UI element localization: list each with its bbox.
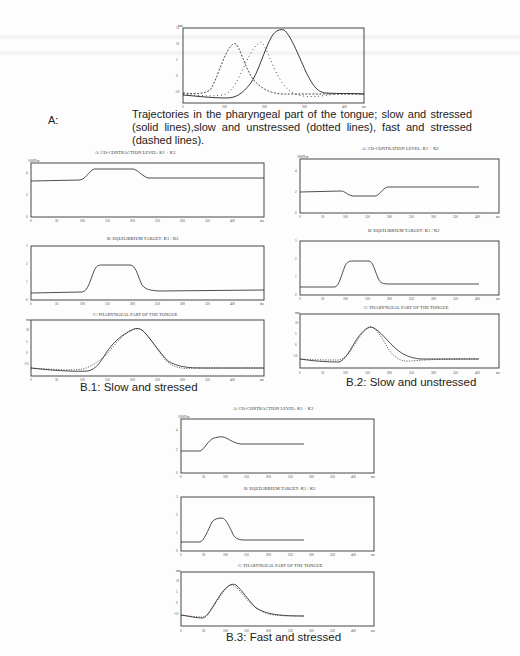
svg-text:10: 10 — [176, 42, 180, 46]
b1-label: B.1: Slow and stressed — [80, 381, 198, 393]
svg-text:0: 0 — [299, 215, 301, 219]
svg-text:1: 1 — [26, 280, 28, 284]
b2-c-solid-curve — [300, 327, 479, 362]
svg-text:0: 0 — [180, 629, 182, 633]
svg-text:250: 250 — [288, 553, 293, 557]
b3-b-y-ticks: 3 2 1 0 — [176, 495, 178, 553]
svg-text:ms: ms — [496, 215, 500, 219]
figure-a-label: A: — [48, 114, 58, 126]
svg-text:0: 0 — [176, 74, 178, 78]
b2-b-x-ticks: 0 50 100 150 200 250 300 350 400 ms — [299, 297, 500, 301]
svg-text:200: 200 — [266, 553, 271, 557]
figure-a-y-ticks: 15 10 5 0 -10 — [175, 26, 180, 94]
svg-text:0: 0 — [30, 378, 32, 382]
svg-text:1: 1 — [176, 531, 178, 535]
b3-plot-b-title: b/ EQUILIBRIUM TARGET: k1 / k2 — [244, 486, 316, 491]
b2-pharyngeal-chart: mm 10 5 0 -10 0 50 100 150 200 250 300 3… — [297, 310, 520, 376]
svg-text:4: 4 — [295, 169, 297, 173]
svg-text:2: 2 — [26, 262, 28, 266]
svg-text:350: 350 — [453, 297, 458, 301]
b2-plot-b-title: b/ EQUILIBRIUM TARGET: k1 / k2 — [368, 228, 440, 233]
svg-text:200: 200 — [130, 302, 135, 306]
svg-text:3: 3 — [176, 495, 178, 499]
svg-text:4: 4 — [26, 171, 28, 175]
b1-a-curve — [31, 169, 264, 181]
svg-text:0: 0 — [176, 471, 178, 475]
svg-text:250: 250 — [155, 302, 160, 306]
svg-text:2: 2 — [295, 257, 297, 261]
b3-b-curve — [181, 518, 304, 542]
svg-text:10: 10 — [295, 321, 299, 325]
svg-text:0: 0 — [30, 302, 32, 306]
svg-text:300: 300 — [431, 297, 436, 301]
svg-text:350: 350 — [330, 475, 335, 479]
svg-text:100: 100 — [343, 215, 348, 219]
svg-text:ms: ms — [496, 297, 500, 301]
b3-c-y-ticks: 10 5 0 -10 — [174, 579, 180, 616]
figure-a-plot-frame — [183, 28, 364, 103]
b3-a-curve — [181, 437, 304, 451]
svg-text:100: 100 — [80, 219, 85, 223]
svg-text:1000N/m: 1000N/m — [297, 155, 309, 159]
svg-text:150: 150 — [105, 302, 110, 306]
svg-text:3: 3 — [295, 239, 297, 243]
svg-text:350: 350 — [205, 302, 210, 306]
svg-text:300: 300 — [180, 219, 185, 223]
svg-text:0: 0 — [295, 343, 297, 347]
svg-text:400: 400 — [351, 629, 356, 633]
svg-text:ms: ms — [496, 371, 500, 375]
svg-text:0: 0 — [26, 298, 28, 302]
svg-text:15: 15 — [176, 26, 180, 30]
svg-text:350: 350 — [330, 553, 335, 557]
svg-text:50: 50 — [321, 297, 325, 301]
b1-equilibrium-chart: 3 2 1 0 0 50 100 150 200 250 300 350 400… — [28, 241, 268, 307]
svg-text:100: 100 — [80, 302, 85, 306]
series-slow-unstressed-dotted — [183, 42, 364, 97]
svg-text:200: 200 — [130, 219, 135, 223]
svg-text:-10: -10 — [24, 362, 29, 366]
b3-a-x-ticks: 0 50 100 150 200 250 300 350 400 ms — [180, 475, 375, 479]
b2-b-curve — [300, 261, 479, 287]
svg-text:ms: ms — [371, 629, 375, 633]
b3-pharyngeal-chart: mm 10 5 0 -10 0 50 100 150 200 250 300 3… — [178, 568, 418, 634]
b2-plot-a-title: a/ CO-CONTRATION LEVEL: k1 + k2 — [362, 146, 439, 151]
svg-text:200: 200 — [266, 475, 271, 479]
b1-b-curve — [31, 265, 264, 293]
svg-text:250: 250 — [409, 371, 414, 375]
b3-c-dotted-curve — [181, 585, 304, 617]
svg-text:0: 0 — [176, 549, 178, 553]
b2-c-x-ticks: 0 50 100 150 200 250 300 350 400 ms — [299, 371, 500, 375]
svg-text:0: 0 — [180, 553, 182, 557]
svg-text:-10: -10 — [293, 354, 298, 358]
svg-text:100: 100 — [343, 297, 348, 301]
svg-text:150: 150 — [105, 219, 110, 223]
svg-text:150: 150 — [244, 475, 249, 479]
svg-text:50: 50 — [55, 219, 59, 223]
svg-text:0: 0 — [295, 211, 297, 215]
svg-text:-10: -10 — [174, 612, 179, 616]
svg-text:0: 0 — [26, 351, 28, 355]
svg-text:400: 400 — [475, 371, 480, 375]
svg-text:50: 50 — [321, 215, 325, 219]
b3-equilibrium-chart: 3 2 1 0 0 50 100 150 200 250 300 350 400… — [178, 492, 418, 558]
b3-a-y-ticks: 4 2 0 — [176, 428, 178, 475]
svg-text:50: 50 — [321, 371, 325, 375]
series-fast-stressed-dashed — [183, 44, 364, 94]
svg-text:10: 10 — [26, 328, 30, 332]
b1-b-y-ticks: 3 2 1 0 — [26, 244, 28, 302]
svg-text:5: 5 — [26, 340, 28, 344]
b2-co-contraction-chart: 1000N/m 4 2 0 0 50 100 150 200 250 300 3… — [297, 154, 520, 220]
b1-c-dotted-curve — [31, 329, 264, 370]
svg-text:150: 150 — [365, 371, 370, 375]
svg-text:4: 4 — [176, 428, 178, 432]
series-slow-stressed-solid — [183, 30, 364, 98]
b2-a-curve — [300, 187, 479, 196]
svg-text:350: 350 — [205, 378, 210, 382]
b1-b-x-ticks: 0 50 100 150 200 250 300 350 400 ms — [30, 302, 264, 306]
svg-text:0: 0 — [299, 371, 301, 375]
svg-text:ms: ms — [260, 302, 264, 306]
b1-pharyngeal-chart: mm 10 5 0 -10 0 50 100 150 200 250 300 3… — [28, 317, 268, 383]
svg-text:2: 2 — [295, 190, 297, 194]
b1-a-y-ticks: 4 2 0 — [26, 171, 28, 219]
svg-text:2: 2 — [26, 193, 28, 197]
